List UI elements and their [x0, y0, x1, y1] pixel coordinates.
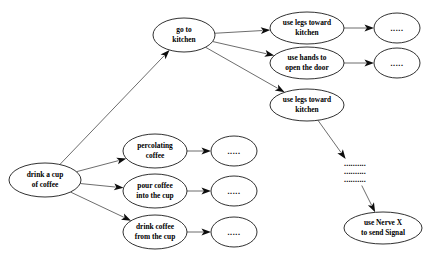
node-label-line2-use-nerve-x: to send Signal: [361, 228, 405, 237]
task-decomposition-diagram: drink a cupof coffeego tokitchenpercolat…: [0, 0, 429, 256]
node-label-line2-root: of coffee: [32, 180, 59, 189]
node-percolating-coffee[interactable]: percolatingcoffee: [123, 134, 187, 168]
node-go-to-kitchen[interactable]: go tokitchen: [153, 18, 215, 52]
node-use-hands-door[interactable]: use hands toopen the door: [270, 47, 344, 79]
node-label-ellipsis-percolating: .....: [228, 147, 241, 156]
diagram-canvas: drink a cupof coffeego tokitchenpercolat…: [0, 0, 429, 256]
node-label-line1-go-to-kitchen: go to: [176, 25, 192, 34]
node-label-line1-drink-coffee: drink coffee: [136, 222, 175, 231]
node-label-line1-use-legs-kitchen-1: use legs toward: [283, 18, 332, 27]
continuation-marker-row-2: ..........: [344, 175, 366, 184]
node-label-ellipsis-use-legs: .....: [391, 24, 404, 33]
edge-go-to-kitchen-to-use-legs-kitchen-1: [215, 31, 262, 34]
node-ellipsis-drink[interactable]: .....: [211, 217, 257, 247]
edge-root-to-pour-coffee: [80, 184, 115, 188]
node-label-line2-use-legs-kitchen-2: kitchen: [295, 105, 318, 114]
node-label-ellipsis-drink: .....: [228, 228, 241, 237]
node-ellipsis-use-hands[interactable]: .....: [374, 48, 420, 78]
node-label-ellipsis-use-hands: .....: [391, 59, 404, 68]
arrowhead-go-to-kitchen-to-use-legs-kitchen-2: [275, 85, 285, 93]
node-ellipsis-pour[interactable]: .....: [211, 176, 257, 206]
node-label-line1-use-legs-kitchen-2: use legs toward: [283, 95, 332, 104]
edge-vertical-ellipsis-to-use-nerve-x: [362, 186, 372, 206]
continuation-marker: ..............................: [344, 159, 366, 184]
node-label-line2-drink-coffee: from the cup: [135, 232, 176, 241]
edge-root-to-drink-coffee: [70, 192, 123, 217]
node-label-line2-pour-coffee: into the cup: [136, 191, 173, 200]
node-ellipsis-use-legs[interactable]: .....: [374, 13, 420, 43]
edge-use-legs-kitchen-2-to-vertical-ellipsis: [318, 120, 341, 152]
edge-root-to-percolating-coffee: [76, 161, 118, 172]
node-use-legs-kitchen-2[interactable]: use legs towardkitchen: [270, 89, 344, 121]
node-use-legs-kitchen-1[interactable]: use legs towardkitchen: [270, 12, 344, 44]
node-pour-coffee[interactable]: pour coffeeinto the cup: [123, 174, 187, 208]
node-layer: drink a cupof coffeego tokitchenpercolat…: [9, 12, 422, 249]
node-label-line1-use-nerve-x: use Nerve X: [364, 218, 403, 227]
node-root[interactable]: drink a cupof coffee: [9, 163, 81, 197]
node-label-line1-use-hands-door: use hands to: [287, 53, 326, 62]
node-label-line1-root: drink a cup: [27, 170, 64, 179]
node-use-nerve-x[interactable]: use Nerve Xto send Signal: [344, 212, 422, 244]
node-drink-coffee[interactable]: drink coffeefrom the cup: [123, 215, 187, 249]
node-label-line2-use-legs-kitchen-1: kitchen: [295, 28, 318, 37]
node-label-ellipsis-pour: .....: [228, 187, 241, 196]
edge-go-to-kitchen-to-use-hands-door: [213, 42, 267, 54]
node-ellipsis-percolating[interactable]: .....: [211, 136, 257, 166]
node-label-line1-pour-coffee: pour coffee: [137, 181, 173, 190]
arrowhead-use-legs-kitchen-2-to-vertical-ellipsis: [337, 149, 345, 159]
node-label-line2-use-hands-door: open the door: [285, 63, 329, 72]
node-label-line2-percolating-coffee: coffee: [146, 151, 165, 160]
node-label-line1-percolating-coffee: percolating: [137, 141, 173, 150]
arrowhead-vertical-ellipsis-to-use-nerve-x: [368, 202, 375, 212]
node-label-line2-go-to-kitchen: kitchen: [172, 35, 195, 44]
continuation-marker-layer: ..............................: [344, 159, 366, 184]
edge-go-to-kitchen-to-use-legs-kitchen-2: [206, 47, 278, 88]
arrowhead-root-to-drink-coffee: [121, 214, 131, 221]
